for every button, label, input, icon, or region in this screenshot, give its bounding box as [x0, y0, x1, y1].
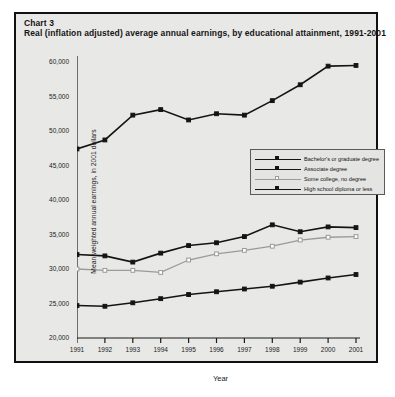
- legend-row: Associate degree: [255, 164, 380, 174]
- y-tick-label: 35,000: [29, 231, 69, 238]
- chart-number: Chart 3: [24, 18, 54, 28]
- legend-label: Bachelor's or graduate degree: [301, 156, 379, 162]
- y-tick-label: 30,000: [29, 265, 69, 272]
- legend-label: Some college, no degree: [301, 176, 366, 182]
- legend-swatch-1: [255, 155, 301, 164]
- y-tick-label: 40,000: [29, 196, 69, 203]
- legend-label: High school diploma or less: [301, 186, 372, 192]
- plot-area: Mean weighted annual earnings, in 2001 d…: [77, 48, 364, 352]
- legend-swatch-2: [255, 165, 301, 174]
- legend-marker: [275, 176, 279, 180]
- legend-marker: [275, 156, 279, 160]
- legend-label: Associate degree: [301, 166, 347, 172]
- legend-row: Some college, no degree: [255, 174, 380, 184]
- chart-title: Real (inflation adjusted) average annual…: [24, 28, 386, 38]
- plot-svg: [77, 48, 364, 352]
- x-tick-label: 2001: [336, 346, 376, 353]
- x-axis-title: Year: [77, 374, 364, 383]
- y-tick-label: 55,000: [29, 93, 69, 100]
- y-tick-label: 25,000: [29, 300, 69, 307]
- legend-marker: [275, 186, 279, 190]
- legend-swatch-3: [255, 175, 301, 184]
- chart-legend: Bachelor's or graduate degreeAssociate d…: [250, 149, 385, 195]
- y-tick-label: 50,000: [29, 127, 69, 134]
- legend-row: High school diploma or less: [255, 184, 380, 194]
- y-tick-label: 45,000: [29, 162, 69, 169]
- legend-swatch-4: [255, 185, 301, 194]
- legend-row: Bachelor's or graduate degree: [255, 154, 380, 164]
- legend-marker: [275, 166, 279, 170]
- y-tick-label: 20,000: [29, 334, 69, 341]
- y-tick-label: 60,000: [29, 58, 69, 65]
- y-axis-title: Mean weighted annual earnings, in 2001 d…: [90, 87, 97, 317]
- chart-frame: Chart 3 Real (inflation adjusted) averag…: [14, 12, 378, 363]
